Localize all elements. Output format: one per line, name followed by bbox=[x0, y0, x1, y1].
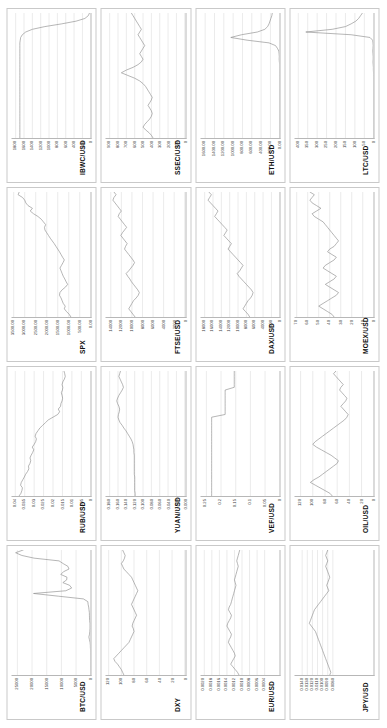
y-axis: 0.1800.1600.1400.1200.1000.0800.0600.040… bbox=[105, 497, 185, 537]
y-tick-label: 0.015 bbox=[60, 499, 64, 509]
y-tick-label: 1800 bbox=[13, 141, 17, 150]
y-tick-label: 20000 bbox=[30, 678, 34, 690]
y-tick-label: 18000 bbox=[202, 320, 206, 332]
screenshot-root: 2500020000150001000050000BTC/USD0.040.03… bbox=[0, 0, 387, 728]
chart-body: 0.00200.00180.00160.00140.00120.00100.00… bbox=[200, 550, 280, 716]
plot-area bbox=[200, 13, 280, 139]
y-tick-label: 200 bbox=[166, 141, 170, 148]
y-tick-label: 0 bbox=[372, 320, 376, 322]
y-tick-label: 0.00 bbox=[89, 320, 93, 328]
y-tick-label: 0.0020 bbox=[201, 678, 205, 691]
plot-area bbox=[105, 550, 185, 676]
y-tick-label: 20 bbox=[171, 678, 175, 683]
y-tick-label: 0.0080 bbox=[330, 678, 334, 691]
y-tick-label: 0.0004 bbox=[262, 678, 266, 691]
y-tick-label: 70 bbox=[294, 320, 298, 325]
chart-body: 0.250.20.150.10.050 bbox=[200, 371, 280, 537]
y-tick-label: 1500.00 bbox=[56, 320, 60, 335]
y-tick-label: 4000 bbox=[261, 320, 265, 329]
y-tick-label: 10000 bbox=[235, 320, 239, 332]
y-tick-label: 0.000 bbox=[183, 499, 187, 509]
y-tick-label: 10000 bbox=[59, 678, 63, 690]
y-tick-label: 0.0120 bbox=[310, 678, 314, 691]
y-tick-label: 0.04 bbox=[13, 499, 17, 507]
y-tick-label: 100 bbox=[175, 141, 179, 148]
y-axis: 0.040.0350.030.0250.020.0150.010.0050 bbox=[11, 497, 91, 537]
plot-area bbox=[294, 550, 374, 676]
y-tick-label: 700 bbox=[124, 141, 128, 148]
y-tick-label: 80 bbox=[323, 499, 327, 504]
y-tick-label: 400 bbox=[150, 141, 154, 148]
y-tick-label: 16000 bbox=[210, 320, 214, 332]
chart-panel: 9008007006005004003002001000SSEC/USD bbox=[100, 8, 190, 183]
y-tick-label: 0.02 bbox=[51, 499, 55, 507]
y-tick-label: 0.005 bbox=[80, 499, 84, 509]
chart-body: 180016001400120010008006004002000 bbox=[11, 13, 91, 179]
y-tick-label: 1200 bbox=[38, 141, 42, 150]
y-axis: 706050403020100 bbox=[294, 318, 374, 358]
y-tick-label: 0 bbox=[89, 499, 93, 501]
y-tick-label: 0.025 bbox=[41, 499, 45, 509]
y-tick-label: 5000 bbox=[74, 678, 78, 687]
y-tick-label: 0.0110 bbox=[315, 678, 319, 691]
y-tick-label: 250 bbox=[324, 141, 328, 148]
y-tick-label: 6000 bbox=[151, 320, 155, 329]
chart-body: 1800016000140001200010000800060004000200… bbox=[200, 192, 280, 358]
chart-panel: 3500.003000.002500.002000.001500.001000.… bbox=[6, 187, 96, 362]
y-tick-label: 3000.00 bbox=[22, 320, 26, 335]
y-tick-label: 40 bbox=[158, 678, 162, 683]
chart-panel: 0.00200.00180.00160.00140.00120.00100.00… bbox=[195, 545, 285, 720]
y-tick-label: 0.0016 bbox=[216, 678, 220, 691]
plot-area bbox=[105, 371, 185, 497]
y-tick-label: 900 bbox=[107, 141, 111, 148]
y-tick-label: 1000.00 bbox=[67, 320, 71, 335]
y-tick-label: 0.0090 bbox=[325, 678, 329, 691]
y-tick-label: 200 bbox=[81, 141, 85, 148]
y-tick-label: 0.0008 bbox=[247, 678, 251, 691]
y-tick-label: 200 bbox=[334, 141, 338, 148]
y-tick-label: 0.25 bbox=[203, 499, 207, 507]
plot-area bbox=[294, 371, 374, 497]
y-tick-label: 0.140 bbox=[124, 499, 128, 509]
y-tick-label: 40 bbox=[347, 499, 351, 504]
y-tick-label: 1000 bbox=[47, 141, 51, 150]
y-tick-label: 400.00 bbox=[259, 141, 263, 154]
y-tick-label: 0.100 bbox=[141, 499, 145, 509]
chart-body: 2500020000150001000050000 bbox=[11, 550, 91, 716]
y-tick-label: 600 bbox=[64, 141, 68, 148]
y-tick-label: 1200.00 bbox=[221, 141, 225, 156]
y-tick-label: 0 bbox=[183, 320, 187, 322]
y-tick-label: 10 bbox=[361, 320, 365, 325]
y-axis: 14000120001000080006000400020000 bbox=[105, 318, 185, 358]
y-tick-label: 20 bbox=[350, 320, 354, 325]
y-tick-label: 0 bbox=[278, 499, 282, 501]
y-tick-label: 50 bbox=[362, 141, 366, 146]
chart-panel: 120100806040200OIL/USD bbox=[289, 366, 379, 541]
y-tick-label: 1400 bbox=[30, 141, 34, 150]
y-tick-label: 400 bbox=[295, 141, 299, 148]
chart-body: 14000120001000080006000400020000 bbox=[105, 192, 185, 358]
plot-area bbox=[294, 13, 374, 139]
chart-panel: 14000120001000080006000400020000FTSE/USD bbox=[100, 187, 190, 362]
y-tick-label: 0 bbox=[183, 141, 187, 143]
y-tick-label: 100 bbox=[310, 499, 314, 506]
y-tick-label: 50 bbox=[316, 320, 320, 325]
chart-grid: 2500020000150001000050000BTC/USD0.040.03… bbox=[4, 6, 381, 722]
y-tick-label: 0.00 bbox=[278, 141, 282, 149]
chart-panel: 400350300250200150100500LTC/USD bbox=[289, 8, 379, 183]
y-tick-label: 0.180 bbox=[107, 499, 111, 509]
y-tick-label: 14000 bbox=[219, 320, 223, 332]
y-tick-label: 0 bbox=[372, 499, 376, 501]
chart-body: 0.040.0350.030.0250.020.0150.010.0050 bbox=[11, 371, 91, 537]
y-tick-label: 2500.00 bbox=[33, 320, 37, 335]
chart-panel: 0.250.20.150.10.050VEF/USD bbox=[195, 366, 285, 541]
plot-area bbox=[294, 192, 374, 318]
y-tick-label: 500 bbox=[141, 141, 145, 148]
y-tick-label: 0.0130 bbox=[305, 678, 309, 691]
y-tick-label: 0.160 bbox=[116, 499, 120, 509]
y-tick-label: 0.080 bbox=[150, 499, 154, 509]
y-tick-label: 0.020 bbox=[175, 499, 179, 509]
y-tick-label: 0 bbox=[89, 678, 93, 680]
y-axis: 0.00200.00180.00160.00140.00120.00100.00… bbox=[200, 676, 280, 716]
y-axis: 9008007006005004003002001000 bbox=[105, 139, 185, 179]
